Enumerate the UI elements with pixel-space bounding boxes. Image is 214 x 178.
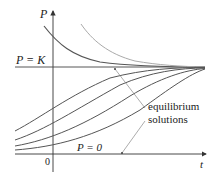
curve-above-k-light	[81, 24, 205, 67]
pointer-to-zero	[122, 121, 145, 153]
origin-label: 0	[45, 156, 50, 167]
annotation-line2: solutions	[148, 113, 188, 125]
annotation-line1: equilibrium	[148, 100, 200, 112]
diagram-canvas: P t 0 P = K P = 0 equilibrium solutions	[0, 0, 214, 178]
equilibrium-zero-label: P = 0	[76, 141, 102, 153]
curve-above-k-dark	[44, 26, 205, 67]
p-axis-label: P	[39, 7, 48, 21]
t-axis-label: t	[200, 158, 204, 170]
equilibrium-k-label: P = K	[15, 53, 46, 67]
